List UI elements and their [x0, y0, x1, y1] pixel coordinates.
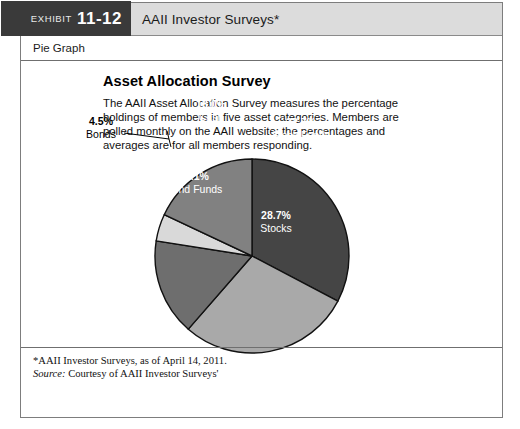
footnote-line-1: *AAII Investor Surveys, as of April 14, …: [33, 354, 502, 367]
exhibit-title: AAII Investor Surveys*: [142, 3, 279, 36]
footnote-source-text: Courtesy of AAII Investor Surveys': [66, 368, 219, 379]
graph-type-bar: Pie Graph: [21, 36, 502, 61]
pie-label-bond-funds-name: Bond Funds: [151, 183, 237, 196]
pie-label-stock-funds: 32.7% Stock Funds: [261, 116, 341, 141]
pie-label-stocks: 28.7% Stocks: [236, 209, 316, 234]
pie-label-bonds-name: Bonds: [73, 128, 129, 141]
exhibit-number-tab: EXHIBIT 11-12: [1, 1, 131, 36]
footnote-source-line: Source: Courtesy of AAII Investor Survey…: [33, 367, 502, 380]
pie-label-stocks-pct: 28.7%: [236, 209, 316, 222]
pie-label-cash: 18.0% Cash: [176, 98, 246, 123]
pie-label-bond-funds: 16.1% Bond Funds: [151, 170, 237, 195]
pie-label-stocks-name: Stocks: [236, 222, 316, 235]
exhibit-word-label: EXHIBIT: [31, 13, 72, 24]
pie-label-cash-pct: 18.0%: [176, 98, 246, 111]
pie-label-stock-funds-name: Stock Funds: [261, 129, 341, 142]
exhibit-body: Asset Allocation Survey The AAII Asset A…: [21, 61, 502, 383]
exhibit-page: EXHIBIT 11-12 AAII Investor Surveys* Pie…: [0, 0, 520, 429]
exhibit-header: EXHIBIT 11-12 AAII Investor Surveys*: [21, 3, 502, 36]
pie-label-bonds: 4.5% Bonds: [73, 115, 129, 140]
exhibit-footnote: *AAII Investor Surveys, as of April 14, …: [21, 347, 502, 383]
bonds-leader-line: [124, 133, 169, 139]
pie-label-stock-funds-pct: 32.7%: [261, 116, 341, 129]
pie-label-bonds-pct: 4.5%: [73, 115, 129, 128]
pie-label-bond-funds-pct: 16.1%: [151, 170, 237, 183]
exhibit-frame: EXHIBIT 11-12 AAII Investor Surveys* Pie…: [20, 2, 503, 418]
pie-chart: 32.7% Stock Funds 28.7% Stocks 16.1% Bon…: [21, 61, 502, 383]
pie-label-cash-name: Cash: [176, 111, 246, 124]
exhibit-number-label: 11-12: [77, 9, 122, 29]
graph-type-label: Pie Graph: [33, 42, 85, 54]
footnote-source-label: Source:: [33, 368, 66, 379]
